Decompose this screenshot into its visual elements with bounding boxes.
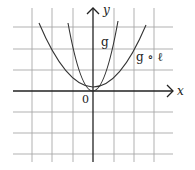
x-axis-label: x <box>177 84 184 98</box>
origin-label: 0 <box>82 93 89 106</box>
curve-g-compose-l-label: g ∘ ℓ <box>136 50 163 64</box>
graph: y x 0 g g ∘ ℓ <box>0 0 195 170</box>
curve-g-label: g <box>101 35 109 49</box>
y-axis-label: y <box>102 3 110 17</box>
axes <box>13 8 173 162</box>
